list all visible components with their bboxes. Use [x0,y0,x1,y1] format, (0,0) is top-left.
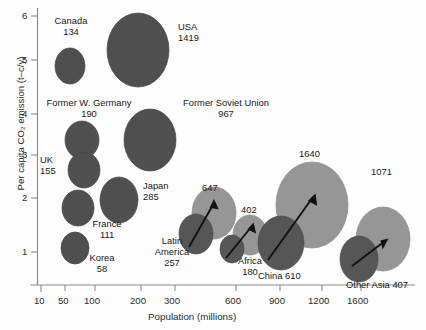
label-korea: Korea 58 [81,253,123,275]
y-tick-label-5: 5 [22,54,27,65]
label-latin-america-future: 647 [202,182,218,193]
label-canada-value: 134 [48,27,94,38]
label-france: France 111 [85,219,129,241]
bubble-canada [55,48,85,84]
y-axis-title: Per capita CO₂ emission (t–c/y) [15,44,26,204]
label-former-w-germany-value: 190 [42,109,136,120]
label-former-soviet-union: Former Soviet Union 967 [178,98,274,120]
label-latin-america-value: 257 [150,258,194,269]
label-uk-value: 155 [40,166,68,177]
y-tick-label-1: 1 [22,246,27,257]
bubble-usa [107,13,169,87]
label-other-asia: Other Asia 407 [346,279,408,290]
label-canada: Canada 134 [48,16,94,38]
x-axis-title: Population (millions) [148,311,236,322]
x-tick-label-200: 200 [130,295,146,306]
label-usa: USA 1419 [178,22,218,44]
bubble-chart: Per capita CO₂ emission (t–c/y) 6 5 4 3 … [0,0,426,330]
x-tick-label-50: 50 [58,295,69,306]
x-tick-label-1600: 1600 [347,295,368,306]
x-tick-label-100: 100 [84,295,100,306]
x-tick-label-1200: 1200 [308,295,329,306]
label-uk: UK 155 [40,155,68,177]
label-japan: Japan 285 [143,181,183,203]
y-tick-label-2: 2 [22,192,27,203]
x-tick-label-900: 900 [269,295,285,306]
bubble-japan [100,177,138,223]
label-former-w-germany: Former W. Germany 190 [42,98,136,120]
label-other-asia-future: 1071 [371,166,392,177]
y-tick-label-4: 4 [22,108,27,119]
label-latin-america-name-line2: America [150,247,194,258]
label-former-soviet-union-value: 967 [178,109,274,120]
y-tick-label-3: 3 [22,149,27,160]
label-japan-value: 285 [143,192,183,203]
y-tick-label-6: 6 [22,10,27,21]
x-tick-label-600: 600 [225,295,241,306]
label-usa-value: 1419 [178,33,218,44]
bubble-uk [68,152,100,188]
bubble-other-asia [340,236,378,282]
label-korea-value: 58 [81,264,123,275]
x-tick-label-300: 300 [164,295,180,306]
label-africa-future: 402 [241,204,257,215]
label-france-value: 111 [85,230,129,241]
label-china-future: 1640 [299,148,320,159]
x-tick-label-10: 10 [34,295,45,306]
label-latin-america: Latin America 257 [150,236,194,268]
label-china: China 610 [258,270,301,281]
